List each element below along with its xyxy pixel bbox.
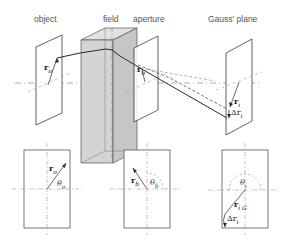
r-ig-label: ri G bbox=[234, 199, 247, 211]
delta-r-i-bottom-label: Δri bbox=[227, 214, 239, 225]
theta-b-label: θb bbox=[150, 178, 159, 189]
delta-r-i-label: Δri bbox=[231, 108, 243, 119]
object-plane bbox=[36, 35, 62, 125]
r-o-label: ro bbox=[44, 62, 52, 74]
theta-i-label: θi bbox=[240, 178, 247, 189]
theta-o-label: θo bbox=[57, 179, 65, 190]
r-o-cross-label: ro bbox=[49, 163, 57, 175]
optics-diagram bbox=[0, 0, 288, 249]
field-box-front bbox=[81, 40, 113, 163]
field-box-side bbox=[113, 28, 137, 163]
r-i-label: ri bbox=[234, 96, 240, 108]
r-b-cross-label: rb bbox=[131, 175, 139, 187]
gauss-plane bbox=[226, 39, 252, 135]
r-b-label: rb bbox=[137, 64, 145, 76]
